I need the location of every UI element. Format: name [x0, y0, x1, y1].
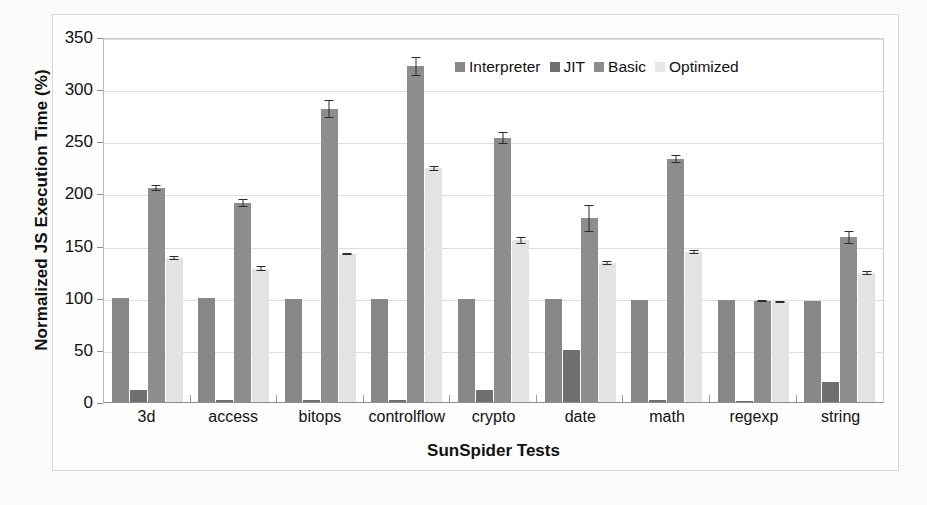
bar-group-bitops: [277, 39, 364, 402]
bar-date-jit[interactable]: [563, 37, 580, 402]
bar-fill: [148, 188, 165, 402]
bar-fill: [339, 254, 356, 402]
bar-string-jit[interactable]: [822, 37, 839, 402]
legend-item-basic[interactable]: Basic: [594, 58, 646, 76]
error-bar-cap-top: [238, 199, 247, 200]
error-bar-stem: [329, 100, 330, 119]
bar-3d-optimized[interactable]: [166, 37, 183, 402]
bar-date-interpreter[interactable]: [545, 37, 562, 402]
error-bar-cap-bottom: [516, 243, 525, 244]
error-bar: [758, 300, 767, 302]
error-bar: [516, 237, 525, 243]
legend-swatch-icon: [594, 62, 604, 72]
legend-item-optimized[interactable]: Optimized: [655, 58, 739, 76]
bar-groups: [104, 39, 883, 402]
bar-fill: [667, 159, 684, 402]
error-bar-cap-bottom: [603, 264, 612, 265]
y-tick-mark: [97, 90, 103, 91]
bar-regexp-interpreter[interactable]: [718, 37, 735, 402]
legend-label: JIT: [564, 58, 586, 76]
error-bar: [585, 205, 594, 232]
bar-3d-basic[interactable]: [148, 37, 165, 402]
bar-bitops-interpreter[interactable]: [285, 37, 302, 402]
y-tick-label: 100: [49, 289, 93, 309]
bar-string-interpreter[interactable]: [804, 37, 821, 402]
error-bar: [844, 231, 853, 244]
error-bar-cap-bottom: [238, 206, 247, 207]
error-bar: [671, 155, 680, 163]
bar-bitops-basic[interactable]: [321, 37, 338, 402]
bar-string-optimized[interactable]: [858, 37, 875, 402]
bar-crypto-optimized[interactable]: [512, 37, 529, 402]
legend-item-interpreter[interactable]: Interpreter: [455, 58, 541, 76]
bar-3d-interpreter[interactable]: [112, 37, 129, 402]
x-axis-tick-labels: 3daccessbitopscontrolflowcryptodatemathr…: [103, 408, 884, 426]
bar-date-optimized[interactable]: [599, 37, 616, 402]
bar-controlflow-optimized[interactable]: [425, 37, 442, 402]
bar-fill: [858, 273, 875, 402]
legend-swatch-icon: [550, 62, 560, 72]
error-bar: [411, 57, 420, 76]
error-bar-cap-bottom: [325, 117, 334, 118]
bar-group-3d: [104, 39, 191, 402]
bar-fill: [822, 382, 839, 402]
bar-bitops-optimized[interactable]: [339, 37, 356, 402]
bar-bitops-jit[interactable]: [303, 37, 320, 402]
bar-math-basic[interactable]: [667, 37, 684, 402]
bar-math-optimized[interactable]: [685, 37, 702, 402]
legend-label: Interpreter: [469, 58, 541, 76]
bar-controlflow-interpreter[interactable]: [371, 37, 388, 402]
y-tick-label: 350: [49, 28, 93, 48]
error-bar-cap-top: [862, 271, 871, 272]
bar-fill: [303, 400, 320, 402]
bar-fill: [631, 300, 648, 402]
error-bar-cap-top: [844, 231, 853, 232]
error-bar-cap-top: [585, 205, 594, 206]
bar-crypto-basic[interactable]: [494, 37, 511, 402]
error-bar-cap-bottom: [689, 253, 698, 254]
bar-access-optimized[interactable]: [252, 37, 269, 402]
x-tick-label-date: date: [537, 408, 624, 426]
error-bar: [776, 301, 785, 303]
bar-group-string: [797, 39, 884, 402]
bar-fill: [545, 299, 562, 402]
error-bar: [152, 185, 161, 191]
error-bar-cap-top: [429, 166, 438, 167]
error-bar-cap-bottom: [411, 75, 420, 76]
bar-controlflow-basic[interactable]: [407, 37, 424, 402]
bar-fill: [321, 109, 338, 402]
bar-fill: [112, 298, 129, 402]
bar-access-jit[interactable]: [216, 37, 233, 402]
error-bar: [170, 256, 179, 260]
y-tick-mark: [97, 299, 103, 300]
bar-regexp-optimized[interactable]: [772, 37, 789, 402]
error-bar-cap-bottom: [844, 243, 853, 244]
legend-label: Optimized: [669, 58, 739, 76]
bar-group-date: [537, 39, 624, 402]
bar-3d-jit[interactable]: [130, 37, 147, 402]
bar-string-basic[interactable]: [840, 37, 857, 402]
x-tick-label-crypto: crypto: [450, 408, 537, 426]
bar-crypto-interpreter[interactable]: [458, 37, 475, 402]
bar-regexp-basic[interactable]: [754, 37, 771, 402]
error-bar-cap-bottom: [170, 259, 179, 260]
bar-access-interpreter[interactable]: [198, 37, 215, 402]
error-bar-cap-top: [516, 237, 525, 238]
bar-fill: [754, 301, 771, 402]
bar-date-basic[interactable]: [581, 37, 598, 402]
bar-crypto-jit[interactable]: [476, 37, 493, 402]
error-bar-cap-top: [152, 185, 161, 186]
error-bar-cap-top: [411, 57, 420, 58]
figure-caption: [78, 487, 778, 503]
bar-access-basic[interactable]: [234, 37, 251, 402]
error-bar-cap-bottom: [585, 231, 594, 232]
bar-controlflow-jit[interactable]: [389, 37, 406, 402]
bar-math-jit[interactable]: [649, 37, 666, 402]
error-bar-cap-top: [689, 250, 698, 251]
bar-regexp-jit[interactable]: [736, 37, 753, 402]
bar-fill: [371, 299, 388, 402]
y-tick-label: 0: [49, 393, 93, 413]
legend-item-jit[interactable]: JIT: [550, 58, 586, 76]
bar-math-interpreter[interactable]: [631, 37, 648, 402]
bar-fill: [649, 400, 666, 402]
